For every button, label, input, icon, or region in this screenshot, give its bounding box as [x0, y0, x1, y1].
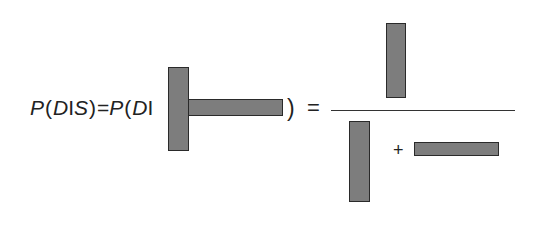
- plus-sign: +: [393, 138, 404, 162]
- denominator-horizontal-bar: [414, 142, 499, 156]
- denominator-vertical-bar: [349, 121, 370, 202]
- close-paren-2: ): [287, 96, 295, 120]
- equation-lhs: P(DIS)=P(DI: [30, 96, 153, 120]
- numerator-bar: [386, 23, 406, 98]
- d-symbol-2: D: [132, 96, 147, 119]
- t-vertical-bar: [168, 67, 189, 151]
- close-paren: ): [89, 96, 96, 119]
- equals-sign: =: [97, 96, 109, 119]
- open-paren-2: (: [124, 96, 131, 119]
- p-symbol-2: P: [109, 96, 123, 119]
- fraction-line: [331, 110, 515, 111]
- p-symbol: P: [30, 96, 44, 119]
- open-paren: (: [45, 96, 52, 119]
- equals-sign-2: =: [307, 96, 320, 120]
- given-bar-2: I: [148, 96, 154, 119]
- t-horizontal-bar: [188, 99, 283, 116]
- s-symbol: S: [74, 96, 88, 119]
- d-symbol: D: [53, 96, 68, 119]
